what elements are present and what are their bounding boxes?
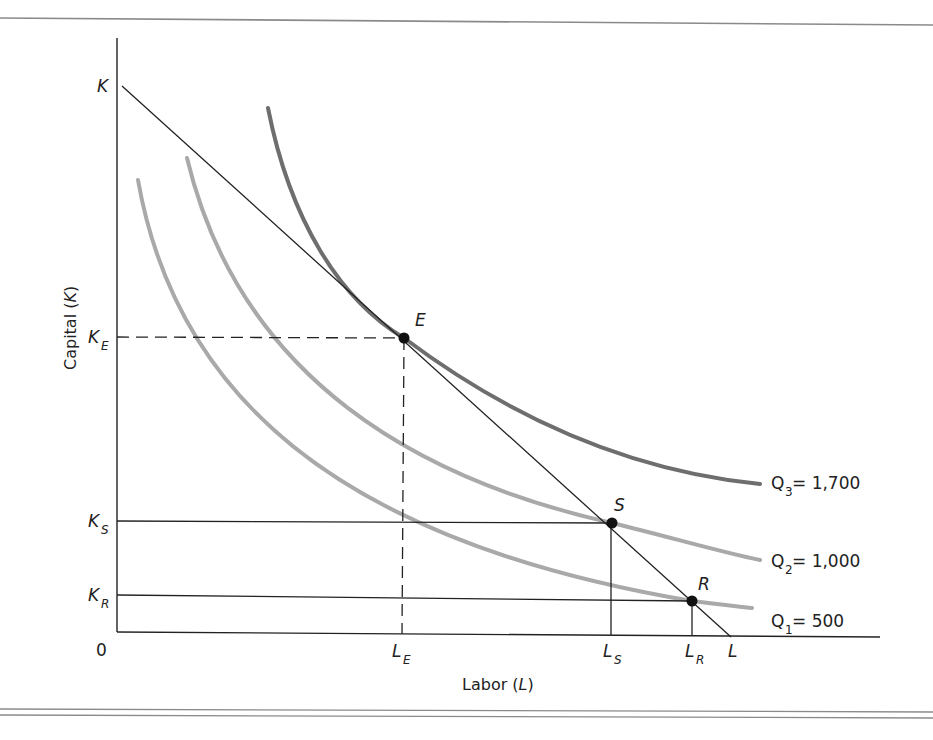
svg-text:L: L — [603, 641, 612, 661]
xtick-le: L E — [392, 641, 411, 667]
xtick-l: L — [728, 641, 737, 661]
guide-le — [402, 338, 404, 634]
ytick-k: K — [97, 76, 110, 96]
bottom-rule-2 — [0, 715, 933, 718]
label-r: R — [698, 574, 710, 594]
top-rule — [0, 18, 933, 25]
legend-q1: Q 1 = 500 — [771, 611, 844, 637]
svg-text:E: E — [403, 653, 411, 667]
guide-ks — [117, 521, 612, 523]
svg-text:L: L — [392, 641, 401, 661]
xtick-lr: L R — [685, 641, 704, 667]
svg-text:K: K — [88, 327, 101, 347]
x-axis — [117, 632, 880, 637]
point-s — [607, 518, 618, 529]
isoquant-chart: E S R K K E K S K R 0 L E L S L R L Labo… — [0, 0, 933, 740]
legend-q2: Q 2 = 1,000 — [771, 551, 860, 577]
svg-text:E: E — [101, 339, 109, 353]
point-r — [687, 596, 698, 607]
point-e — [399, 333, 410, 344]
label-e: E — [415, 310, 426, 330]
guide-ke — [117, 337, 404, 338]
ytick-ke: K E — [88, 327, 109, 353]
ytick-ks: K S — [88, 511, 109, 537]
svg-text:= 1,000: = 1,000 — [792, 551, 860, 571]
x-axis-title: Labor (L) — [462, 675, 534, 694]
svg-text:L: L — [685, 641, 694, 661]
svg-text:Q: Q — [771, 473, 784, 493]
svg-text:R: R — [101, 597, 109, 611]
bottom-rule-1 — [0, 709, 933, 712]
y-axis-title: Capital (K) — [61, 286, 80, 370]
svg-text:S: S — [101, 523, 109, 537]
isoquant-q2 — [187, 158, 760, 560]
svg-text:S: S — [614, 653, 622, 667]
svg-text:Q: Q — [771, 611, 784, 631]
ytick-kr: K R — [88, 585, 109, 611]
isoquant-q1 — [138, 180, 752, 608]
svg-text:= 500: = 500 — [792, 611, 844, 631]
xtick-ls: L S — [603, 641, 622, 667]
svg-text:Q: Q — [771, 551, 784, 571]
svg-text:K: K — [88, 511, 101, 531]
label-s: S — [614, 495, 625, 515]
origin-label: 0 — [96, 640, 107, 660]
svg-text:K: K — [88, 585, 101, 605]
guide-kr — [117, 595, 692, 601]
legend-q3: Q 3 = 1,700 — [771, 473, 860, 499]
svg-text:R: R — [696, 653, 704, 667]
svg-text:= 1,700: = 1,700 — [792, 473, 860, 493]
isoquant-q3 — [268, 108, 760, 484]
